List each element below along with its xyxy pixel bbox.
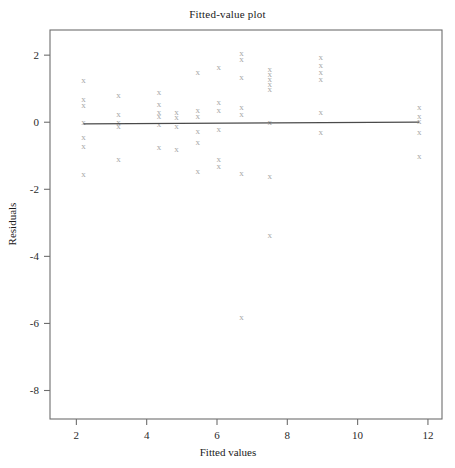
data-points: xxxxxxxxxxxxxxxxxxxxxxxxxxxxxxxxxxxxxxxx… [81, 48, 422, 321]
data-point-marker: x [318, 107, 323, 117]
x-axis-title: Fitted values [200, 446, 257, 458]
x-tick-label: 10 [352, 429, 364, 441]
fitted-value-scatter-plot: 24681012 20-2-4-6-8 xxxxxxxxxxxxxxxxxxxx… [0, 0, 455, 468]
data-point-marker: x [239, 312, 244, 322]
chart-page: Fitted-value plot 24681012 20-2-4-6-8 xx… [0, 0, 455, 468]
data-point-marker: x [217, 161, 222, 171]
reference-line [83, 122, 419, 124]
y-tick-label: 0 [34, 116, 40, 128]
data-point-marker: x [195, 126, 200, 136]
data-point-marker: x [81, 169, 86, 179]
data-point-marker: x [417, 127, 422, 137]
data-point-marker: x [267, 171, 272, 181]
y-tick-label: -2 [30, 183, 39, 195]
data-point-marker: x [267, 84, 272, 94]
data-point-marker: x [267, 230, 272, 240]
x-tick-label: 12 [422, 429, 433, 441]
data-point-marker: x [195, 137, 200, 147]
y-tick-label: -6 [30, 317, 40, 329]
data-point-marker: x [81, 100, 86, 110]
data-point-marker: x [318, 127, 323, 137]
y-tick-label: -8 [30, 384, 40, 396]
data-point-marker: x [239, 72, 244, 82]
data-point-marker: x [116, 90, 121, 100]
data-point-marker: x [116, 121, 121, 131]
data-point-marker: x [239, 54, 244, 64]
data-point-marker: x [318, 74, 323, 84]
data-point-marker: x [239, 168, 244, 178]
y-tick-label: -4 [30, 250, 40, 262]
data-point-marker: x [417, 151, 422, 161]
x-axis-ticks: 24681012 [74, 419, 434, 441]
data-point-marker: x [417, 116, 422, 126]
y-axis-ticks: 20-2-4-6-8 [30, 49, 50, 396]
data-point-marker: x [174, 121, 179, 131]
data-point-marker: x [157, 142, 162, 152]
plot-frame [50, 30, 442, 419]
data-point-marker: x [195, 111, 200, 121]
data-point-marker: x [195, 67, 200, 77]
data-point-marker: x [81, 117, 86, 127]
x-tick-label: 4 [144, 429, 150, 441]
data-point-marker: x [217, 105, 222, 115]
data-point-marker: x [217, 124, 222, 134]
data-point-marker: x [116, 154, 121, 164]
x-tick-label: 6 [214, 429, 220, 441]
zero-reference-line [83, 122, 419, 124]
data-point-marker: x [267, 117, 272, 127]
x-tick-label: 2 [74, 429, 80, 441]
x-tick-label: 8 [285, 429, 291, 441]
data-point-marker: x [195, 166, 200, 176]
data-point-marker: x [239, 109, 244, 119]
y-axis-title: Residuals [6, 203, 18, 246]
data-point-marker: x [81, 141, 86, 151]
data-point-marker: x [217, 62, 222, 72]
data-point-marker: x [157, 87, 162, 97]
data-point-marker: x [81, 75, 86, 85]
y-tick-label: 2 [34, 49, 40, 61]
data-point-marker: x [174, 144, 179, 154]
